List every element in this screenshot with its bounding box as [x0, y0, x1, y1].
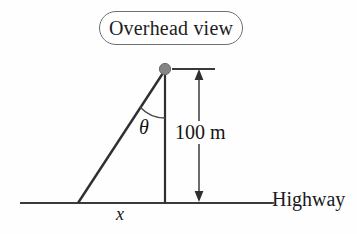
highway-label: Highway — [272, 188, 345, 211]
overhead-view-figure: Overhead view θ 100 m x Highway — [0, 0, 357, 234]
base-length-label: x — [116, 204, 124, 225]
angle-label: θ — [139, 116, 149, 139]
line-of-sight — [78, 70, 165, 203]
dimension-arrow-down — [195, 191, 204, 202]
height-label: 100 m — [172, 121, 229, 144]
callout-label: Overhead view — [99, 11, 243, 45]
observer-point — [159, 63, 170, 74]
dimension-arrow-up — [195, 69, 204, 80]
